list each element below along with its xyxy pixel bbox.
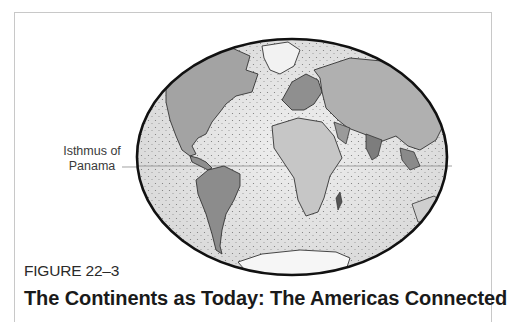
isthmus-of-panama-label: Isthmus of Panama	[44, 144, 140, 174]
label-line-1: Isthmus of	[44, 144, 140, 159]
figure-number: FIGURE 22–3	[24, 262, 119, 280]
figure-title: The Continents as Today: The Americas Co…	[24, 287, 507, 310]
label-line-2: Panama	[44, 159, 140, 174]
globe-interior	[130, 30, 460, 290]
